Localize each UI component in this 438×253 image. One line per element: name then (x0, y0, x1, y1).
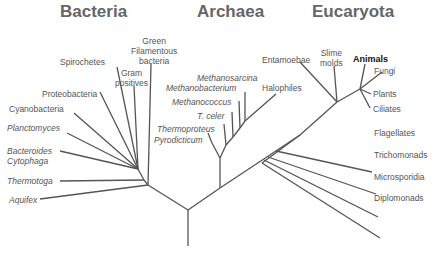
label-cyanobacteria: Cyanobacteria (9, 104, 64, 114)
label-diplomonads: Diplomonads (374, 193, 424, 203)
label-t-celer: T. celer (197, 111, 225, 121)
label-gram-positives: Gram positives (115, 68, 148, 88)
label-trichomonads: Trichomonads (374, 150, 428, 160)
label-green-filamentous: Green Filamentous bacteria (131, 36, 177, 66)
label-microsporidia: Microsporidia (374, 172, 425, 182)
label-proteobacteria: Proteobacteria (42, 89, 97, 99)
label-animals: Animals (353, 54, 388, 64)
label-spirochetes: Spirochetes (60, 57, 105, 67)
label-aquifex: Aquifex (9, 195, 37, 205)
domain-title-bacteria: Bacteria (60, 2, 127, 22)
label-bacteroides-cytophaga: Bacteroides Cytophaga (7, 146, 52, 166)
domain-title-archaea: Archaea (197, 2, 264, 22)
domain-title-eucaryota: Eucaryota (312, 2, 394, 22)
label-methanobacterium: Methanobacterium (166, 83, 236, 93)
label-entamoebae: Entamoebae (262, 55, 310, 65)
label-slime-molds: Slime molds (320, 48, 343, 68)
label-pyrodicticum: Pyrodicticum (154, 135, 203, 145)
label-thermotoga: Thermotoga (7, 176, 53, 186)
label-plants: Plants (373, 89, 397, 99)
tree-lines (0, 0, 438, 253)
label-methanococcus: Methanococcus (172, 97, 232, 107)
label-methanosarcina: Methanosarcina (197, 73, 257, 83)
label-halophiles: Halophiles (262, 83, 302, 93)
label-planctomyces: Planctomyces (7, 123, 60, 133)
label-flagellates: Flagellates (374, 128, 415, 138)
label-fungi: Fungi (374, 66, 395, 76)
label-thermoproteus: Thermoproteus (157, 124, 215, 134)
label-ciliates: Ciliates (373, 104, 401, 114)
